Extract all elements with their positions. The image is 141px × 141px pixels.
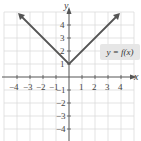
y-axis-label: y [63,0,69,11]
graph: −4 −3 −2 −1 1 2 3 4 4 3 2 1 −1 −2 −3 −4 … [0,0,141,141]
x-axis-label: x [133,71,139,82]
x-tick-label: −4 [9,82,19,92]
y-tick-label: −1 [56,85,66,95]
x-tick-label: −2 [36,82,46,92]
y-tick-label: −3 [56,111,66,121]
x-tick-label: 2 [92,82,97,92]
y-tick-label: 1 [60,59,65,69]
curve-label: y = f(x) [100,44,140,60]
y-tick-label: 3 [60,33,65,43]
x-tick-label: 1 [79,82,84,92]
x-tick-label: −3 [23,82,33,92]
y-tick-label: −2 [56,98,66,108]
y-tick-label: −4 [56,124,66,134]
x-tick-label: 4 [118,82,123,92]
x-tick-label: 3 [105,82,110,92]
y-tick-label: 4 [60,20,65,30]
axes [2,9,133,141]
